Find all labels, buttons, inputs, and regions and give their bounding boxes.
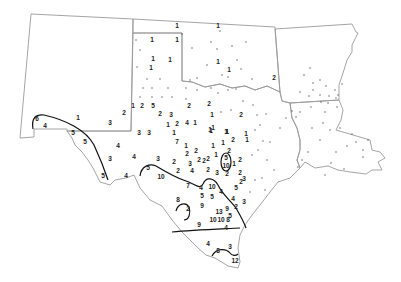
station-dot	[341, 83, 342, 84]
station-dot	[221, 74, 222, 75]
station-value: 2	[194, 147, 198, 154]
station-dot	[196, 89, 197, 90]
station-value: 4	[190, 167, 194, 174]
station-value: 1	[131, 102, 135, 109]
station-value: 1	[221, 139, 225, 146]
station-dot	[265, 113, 266, 114]
station-value: 3	[228, 243, 232, 250]
station-value: 9	[197, 221, 201, 228]
station-dot	[240, 68, 241, 69]
station-value: 5	[200, 192, 204, 199]
station-dot	[259, 124, 260, 125]
station-value: 10	[209, 216, 217, 223]
station-dot	[334, 89, 335, 90]
station-value: 5	[234, 184, 238, 191]
station-value: 5	[146, 164, 150, 171]
station-value: 1	[193, 119, 197, 126]
station-value: 5	[101, 172, 105, 179]
station-dot	[210, 41, 211, 42]
station-value: 5	[151, 102, 155, 109]
station-value: 1	[150, 36, 154, 43]
station-value: 2	[227, 147, 231, 154]
station-dot	[335, 97, 336, 98]
station-dot	[196, 77, 197, 78]
station-dot	[324, 111, 325, 112]
station-value: 1	[172, 129, 176, 136]
station-value: 5	[83, 138, 87, 145]
station-dot	[242, 100, 243, 101]
station-value: 2	[231, 136, 235, 143]
station-dot	[135, 39, 136, 40]
isopleth-map: 1111111112212111125222313124111331116455…	[0, 0, 401, 282]
station-value: 2	[176, 167, 180, 174]
station-dot	[285, 117, 286, 118]
station-dot	[219, 30, 220, 31]
station-dot	[299, 111, 300, 112]
station-dot	[216, 48, 217, 49]
station-dot	[171, 96, 172, 97]
station-value: 1	[232, 160, 236, 167]
station-dot	[251, 78, 252, 79]
station-dot	[220, 111, 221, 112]
station-value: 10	[217, 216, 225, 223]
station-value: 1	[245, 136, 249, 143]
station-value: 1	[76, 114, 80, 121]
louisiana-boundary	[290, 100, 385, 174]
station-dot	[319, 79, 320, 80]
station-dot	[257, 149, 258, 150]
station-value: 9	[200, 202, 204, 209]
station-value: 2	[207, 100, 211, 107]
station-value: 2	[202, 157, 206, 164]
station-value: 1	[227, 66, 231, 73]
station-dot	[185, 87, 186, 88]
station-value: 3	[242, 175, 246, 182]
station-dot	[256, 114, 257, 115]
station-dot	[235, 88, 236, 89]
station-dot	[310, 106, 311, 107]
station-dot	[307, 151, 308, 152]
station-dot	[362, 156, 363, 157]
station-value: 2	[206, 155, 210, 162]
station-value: 10	[222, 162, 230, 169]
station-dot	[191, 47, 192, 48]
station-dot	[151, 87, 152, 88]
station-dot	[236, 59, 237, 60]
station-dot	[139, 96, 140, 97]
station-value: 1	[208, 126, 212, 133]
station-dot	[301, 159, 302, 160]
station-value: 2	[158, 110, 162, 117]
station-value: 1	[175, 22, 179, 29]
station-value: 4	[132, 153, 136, 160]
station-dot	[206, 64, 207, 65]
station-value: 1	[149, 64, 153, 71]
station-value: 3	[137, 129, 141, 136]
station-dot	[249, 191, 250, 192]
station-value: 4	[185, 119, 189, 126]
station-dot	[251, 154, 252, 155]
station-dot	[311, 127, 312, 128]
station-value: 1	[216, 58, 220, 65]
station-dot	[355, 141, 356, 142]
station-value: 2	[197, 156, 201, 163]
station-value: 2	[238, 156, 242, 163]
station-dot	[264, 189, 265, 190]
station-value: 2	[187, 102, 191, 109]
station-value: 1	[175, 36, 179, 43]
station-dot	[245, 41, 246, 42]
station-dot	[142, 87, 143, 88]
station-dot	[319, 94, 320, 95]
station-value: 5	[71, 129, 75, 136]
station-dot	[151, 96, 152, 97]
station-value: 1	[184, 142, 188, 149]
station-value: 2	[234, 203, 238, 210]
station-value: 4	[231, 195, 235, 202]
station-value: 2	[239, 111, 243, 118]
station-dot	[367, 139, 368, 140]
station-dot	[325, 85, 326, 86]
station-value: 7	[175, 138, 179, 145]
station-value: 1	[151, 55, 155, 62]
station-dot	[303, 74, 304, 75]
station-dot	[262, 140, 263, 141]
station-value: 2	[238, 169, 242, 176]
station-dot	[159, 78, 160, 79]
